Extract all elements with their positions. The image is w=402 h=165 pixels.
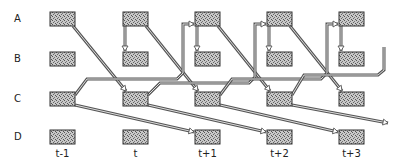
arrow-line-inner [292, 105, 388, 123]
time-label: t+2 [260, 148, 300, 159]
time-label: t+3 [332, 148, 372, 159]
time-label: t-1 [43, 148, 83, 159]
arrow-line-inner [146, 26, 198, 91]
arrow-line-inner [290, 26, 342, 91]
arrowhead-icon [122, 46, 128, 51]
time-label: t+1 [188, 148, 228, 159]
state-box-c [339, 92, 364, 106]
time-label: t [116, 148, 156, 159]
state-box-c [195, 92, 220, 106]
dependency-diagram [0, 0, 402, 165]
row-label-a: A [14, 13, 21, 24]
state-box-c [50, 92, 75, 106]
state-box-c [267, 92, 292, 106]
state-box-d [123, 130, 148, 144]
state-box-d [50, 130, 75, 144]
arrowhead-icon [189, 21, 194, 27]
arrowhead-icon [333, 21, 338, 27]
state-box-d [195, 130, 220, 144]
state-box-b [339, 52, 364, 66]
state-box-c [123, 92, 148, 106]
state-box-a [267, 12, 292, 26]
arrowhead-icon [338, 46, 344, 51]
state-box-b [50, 52, 75, 66]
arrow-line-inner [75, 105, 194, 132]
arrows-layer [73, 21, 388, 134]
row-label-c: C [14, 93, 21, 104]
arrow-line-inner [218, 26, 270, 91]
state-box-a [195, 12, 220, 26]
state-box-d [339, 130, 364, 144]
arrowhead-icon [194, 46, 200, 51]
state-box-a [123, 12, 148, 26]
state-box-d [267, 130, 292, 144]
state-box-b [195, 52, 220, 66]
row-label-d: D [14, 131, 22, 142]
arrow-line-inner [148, 105, 266, 132]
arrow-line-inner [73, 26, 126, 91]
arrowhead-icon [266, 46, 272, 51]
state-box-b [267, 52, 292, 66]
state-box-a [339, 12, 364, 26]
state-box-a [50, 12, 75, 26]
row-label-b: B [14, 53, 21, 64]
state-box-b [123, 52, 148, 66]
arrowhead-icon [261, 21, 266, 27]
